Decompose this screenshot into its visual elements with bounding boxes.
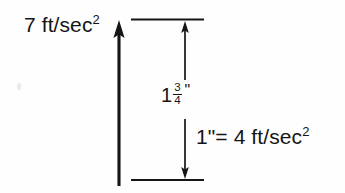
scale-key-label: 1"= 4 ft/sec2 <box>196 126 309 147</box>
acceleration-scale-diagram: 7 ft/sec2 1 3 4 " 1"= 4 ft/sec2 <box>0 0 345 193</box>
scale-key-text: 1"= 4 ft/sec <box>196 125 302 148</box>
dimension-fraction-numerator: 3 <box>173 82 181 94</box>
dimension-fraction: 3 4 <box>173 82 181 107</box>
scale-key-exponent: 2 <box>302 124 309 139</box>
dimension-inch-mark: " <box>185 83 191 99</box>
dimension-fraction-denominator: 4 <box>173 95 181 107</box>
dimension-whole-number: 1 <box>161 85 172 105</box>
scan-speck <box>17 83 21 90</box>
vector-magnitude-exponent: 2 <box>93 12 100 27</box>
vector-magnitude-text: 7 ft/sec <box>24 13 93 36</box>
dimension-length-label: 1 3 4 " <box>160 80 191 109</box>
vector-magnitude-label: 7 ft/sec2 <box>24 14 100 35</box>
